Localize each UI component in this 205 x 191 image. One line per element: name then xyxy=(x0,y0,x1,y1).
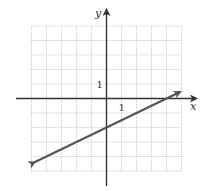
x-axis-label: x xyxy=(190,100,197,113)
y-axis-label: y xyxy=(94,7,102,20)
y-tick-label: 1 xyxy=(97,79,103,90)
coordinate-plane: x y 1 1 xyxy=(0,0,205,191)
x-tick-label: 1 xyxy=(119,102,125,113)
